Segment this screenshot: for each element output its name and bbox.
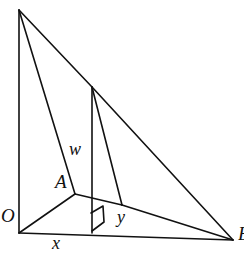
right-angle-marker-icon [91, 206, 104, 231]
edge-inner-a-to-origin [19, 194, 75, 233]
label-vertex-a: A [55, 172, 67, 191]
edge-apex-to-inner-a [19, 10, 75, 194]
label-base-x: x [52, 234, 60, 252]
geometry-figure: O A w x y B [0, 0, 244, 258]
edge-inner-a-to-inner-e [75, 194, 122, 205]
label-origin: O [1, 206, 15, 225]
label-depth-y: y [117, 208, 125, 226]
label-height-w: w [69, 140, 81, 158]
label-base-right: B [238, 224, 244, 243]
edge-top-mid-to-inner-e [92, 87, 122, 205]
